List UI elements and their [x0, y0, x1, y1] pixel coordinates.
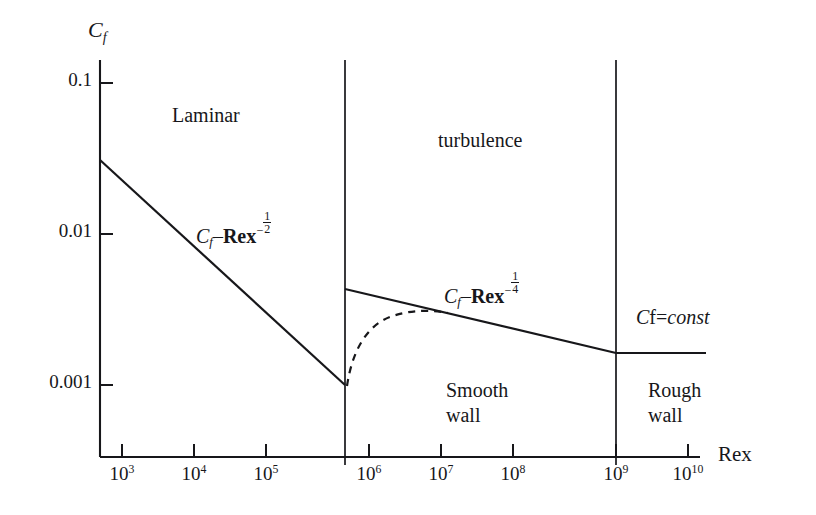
y-tick-label-0p001: 0.001 [30, 372, 92, 392]
y-axis-title: Cf [88, 18, 107, 44]
chart-figure: Cf Rex 0.1 0.01 0.001 103 104 105 106 10… [0, 0, 816, 515]
x-tick-label-1e8: 108 [483, 464, 543, 484]
exponent-numerator: 1 [263, 210, 271, 223]
x-tick-label-1e3: 103 [92, 464, 152, 484]
exponent-denominator: 2 [263, 223, 271, 235]
x-tick-label-1e4: 104 [164, 464, 224, 484]
smooth-wall-line-1: Smooth [446, 378, 508, 403]
transition-dashed-curve [347, 311, 448, 386]
laminar-region-label: Laminar [172, 105, 240, 126]
const-law-annotation: Cf=const [636, 307, 710, 328]
cf-symbol: C [444, 285, 457, 307]
x-tick-label-1e5: 105 [236, 464, 296, 484]
cf-symbol: C [636, 306, 649, 328]
exponent-minus: − [256, 224, 263, 238]
rex-symbol: Rex [223, 225, 256, 247]
laminar-law-annotation: Cf–Rex−12 [196, 212, 271, 247]
y-tick-label-0p1: 0.1 [30, 70, 92, 90]
smooth-wall-region-label: Smooth wall [446, 378, 508, 428]
exponent-minus: − [504, 284, 511, 298]
equals-sign: = [656, 306, 667, 328]
x-tick-label-1e7: 107 [411, 464, 471, 484]
laminar-curve [100, 160, 345, 385]
chart-plot-area [0, 0, 816, 515]
x-tick-label-1e10: 1010 [656, 464, 720, 484]
rough-wall-line-1: Rough [648, 378, 701, 403]
rough-wall-region-label: Rough wall [648, 378, 701, 428]
cf-symbol: C [196, 225, 209, 247]
x-axis-title: Rex [718, 443, 752, 465]
relation-dash: – [213, 225, 223, 247]
relation-dash: – [461, 285, 471, 307]
cf-subscript: f [649, 306, 656, 328]
y-tick-label-0p01: 0.01 [30, 221, 92, 241]
x-tick-label-1e6: 106 [339, 464, 399, 484]
const-word: const [667, 306, 709, 328]
turbulent-law-annotation: Cf–Rex−14 [444, 272, 519, 307]
exponent-denominator: 4 [511, 283, 519, 295]
rex-symbol: Rex [471, 285, 504, 307]
turbulence-region-label: turbulence [438, 130, 522, 151]
smooth-wall-line-2: wall [446, 403, 508, 428]
rough-wall-line-2: wall [648, 403, 701, 428]
exponent-fraction: 12 [263, 210, 271, 235]
x-tick-label-1e9: 109 [586, 464, 646, 484]
exponent-fraction: 14 [511, 270, 519, 295]
exponent-numerator: 1 [511, 270, 519, 283]
